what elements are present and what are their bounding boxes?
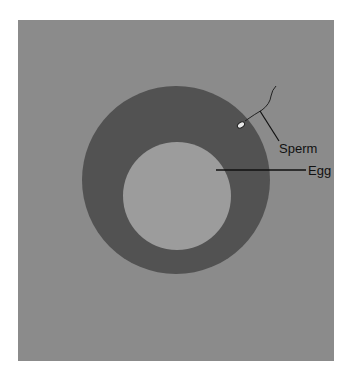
egg-inner-cell	[123, 142, 231, 250]
sperm-label: Sperm	[279, 141, 317, 156]
egg-label: Egg	[308, 163, 331, 178]
fertilization-diagram	[0, 0, 351, 373]
